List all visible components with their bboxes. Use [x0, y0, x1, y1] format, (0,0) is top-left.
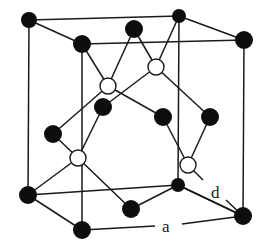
atom-black: [44, 125, 62, 143]
atom-black: [154, 108, 172, 126]
edge-top-right: [179, 16, 244, 40]
atom-black: [125, 20, 143, 38]
atom-white: [180, 157, 196, 173]
edge-vertical-back-right: [178, 16, 179, 185]
atom-black: [73, 35, 91, 53]
atom-black: [19, 186, 37, 204]
edge-vertical-back-left: [28, 20, 29, 195]
bond: [108, 86, 163, 117]
atom-black: [94, 98, 112, 116]
edge-bottom-front-a: [82, 226, 155, 230]
atom-black: [235, 31, 253, 49]
edge-vertical-front-right: [243, 40, 244, 216]
edge-top-back: [29, 16, 179, 20]
atom-black: [122, 200, 140, 218]
white-atoms: [70, 59, 196, 173]
atom-black: [73, 221, 91, 239]
edge-bottom-left: [28, 195, 82, 230]
edge-bottom-back: [28, 185, 178, 195]
bond: [78, 158, 131, 209]
label-a: a: [162, 217, 170, 236]
atom-black: [172, 9, 186, 23]
edge-top-front: [82, 40, 244, 44]
atom-black: [171, 178, 185, 192]
atom-white: [100, 78, 116, 94]
atom-black: [21, 12, 37, 28]
atom-black: [201, 108, 219, 126]
bond: [108, 29, 134, 86]
atom-black: [234, 207, 252, 225]
atom-white: [70, 150, 86, 166]
atom-white: [148, 59, 164, 75]
unit-cell-diagram: d a: [0, 0, 272, 251]
label-d: d: [211, 183, 220, 202]
bond: [28, 158, 78, 195]
edge-bottom-front-b: [182, 216, 243, 224]
